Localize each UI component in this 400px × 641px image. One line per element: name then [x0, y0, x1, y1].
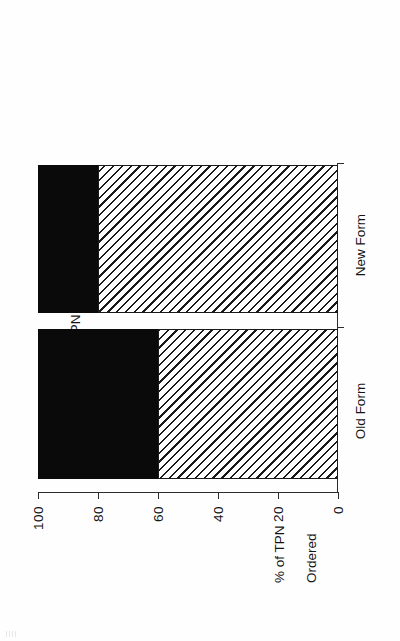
- tick-label-40: 40: [211, 506, 226, 522]
- scanned-page: Standard TPN Non-Standard TPN % of TPN O…: [0, 0, 400, 641]
- plot-area: 0 20 40 60 80 100: [38, 163, 338, 493]
- category-label-old-form: Old Form: [353, 382, 368, 438]
- bar-new-form-non-standard-tpn: [38, 165, 98, 313]
- category-end-tick: [337, 163, 344, 164]
- tick-40: 40: [218, 492, 219, 499]
- bar-chart: Standard TPN Non-Standard TPN % of TPN O…: [20, 41, 380, 601]
- tick-60: 60: [158, 492, 159, 499]
- tick-label-0: 0: [331, 506, 346, 514]
- value-axis-line: [38, 492, 338, 493]
- tick-label-20: 20: [271, 506, 286, 522]
- scan-artifact: [6, 631, 16, 637]
- value-axis-title-line2: Ordered: [304, 525, 320, 583]
- tick-100: 100: [38, 492, 39, 499]
- tick-20: 20: [278, 492, 279, 499]
- tick-label-80: 80: [91, 506, 106, 522]
- tick-label-100: 100: [31, 506, 46, 530]
- bar-old-form-standard-tpn: [158, 329, 338, 479]
- category-label-new-form: New Form: [353, 213, 368, 275]
- bar-new-form-standard-tpn: [98, 165, 338, 313]
- value-axis-title-line1: % of TPN: [272, 525, 288, 583]
- value-axis-title: % of TPN Ordered: [256, 525, 336, 583]
- bar-old-form-non-standard-tpn: [38, 329, 158, 479]
- category-separator-tick: [337, 327, 344, 328]
- rotated-figure: Standard TPN Non-Standard TPN % of TPN O…: [20, 41, 380, 601]
- tick-80: 80: [98, 492, 99, 499]
- tick-0: 0: [338, 492, 339, 499]
- tick-label-60: 60: [151, 506, 166, 522]
